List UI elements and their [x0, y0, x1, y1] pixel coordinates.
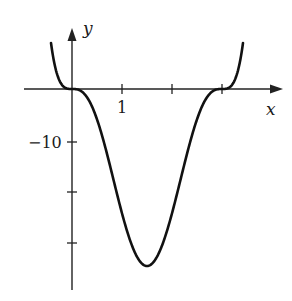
- x-axis-arrow-icon: [270, 85, 283, 94]
- chart: y x 1 −10: [0, 0, 292, 301]
- y-axis-label: y: [82, 18, 93, 38]
- y-tick-label-neg10: −10: [28, 133, 62, 152]
- x-tick-label-1: 1: [117, 98, 127, 117]
- function-curve: [51, 43, 243, 266]
- x-axis-label: x: [266, 99, 276, 119]
- y-axis-arrow-icon: [68, 28, 77, 41]
